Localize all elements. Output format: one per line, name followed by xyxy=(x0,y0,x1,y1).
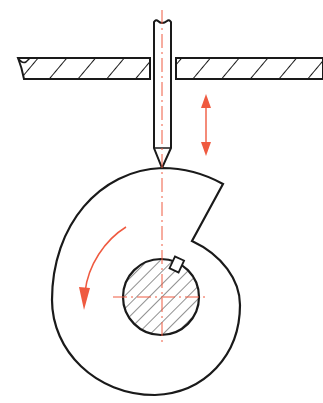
cam-mechanism-diagram xyxy=(0,0,323,403)
reciprocation-arrow xyxy=(201,94,211,156)
guide-plate-right xyxy=(176,58,323,79)
guide-plate-left xyxy=(18,58,150,79)
